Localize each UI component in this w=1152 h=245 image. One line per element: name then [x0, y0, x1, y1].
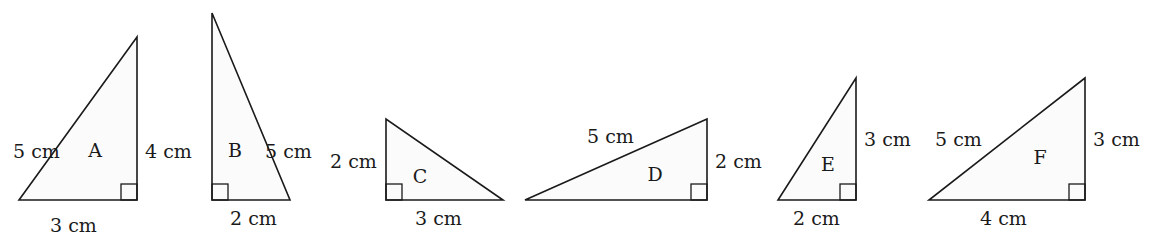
side-length-base: 2 cm [230, 207, 277, 229]
triangles-diagram: A5 cm4 cm3 cmB5 cm2 cmC2 cm3 cmD5 cm2 cm… [0, 0, 1152, 245]
triangle-name-label: B [228, 139, 242, 161]
side-length-hypotenuse: 5 cm [13, 140, 60, 162]
side-length-base: 4 cm [980, 207, 1027, 229]
triangle-shape [778, 78, 856, 200]
triangle-shape [19, 37, 137, 200]
triangle-b: B5 cm2 cm [212, 13, 312, 229]
triangle-a: A5 cm4 cm3 cm [13, 37, 192, 236]
side-length-vertical: 4 cm [145, 140, 192, 162]
side-length-vertical: 2 cm [330, 150, 377, 172]
triangle-name-label: D [647, 163, 662, 185]
side-length-vertical: 2 cm [715, 150, 762, 172]
triangle-name-label: C [413, 165, 428, 187]
side-length-base: 2 cm [793, 207, 840, 229]
triangle-name-label: F [1033, 146, 1046, 168]
side-length-hypotenuse: 5 cm [265, 140, 312, 162]
diagram-canvas: A5 cm4 cm3 cmB5 cm2 cmC2 cm3 cmD5 cm2 cm… [0, 0, 1152, 245]
triangle-name-label: A [87, 139, 102, 161]
side-length-vertical: 3 cm [864, 128, 911, 150]
triangle-d: D5 cm2 cm [525, 119, 762, 200]
triangle-shape [212, 13, 290, 200]
triangle-e: E3 cm2 cm [778, 78, 911, 229]
triangle-c: C2 cm3 cm [330, 119, 503, 229]
side-length-hypotenuse: 5 cm [587, 125, 634, 147]
side-length-base: 3 cm [415, 207, 462, 229]
side-length-vertical: 3 cm [1093, 128, 1140, 150]
side-length-hypotenuse: 5 cm [935, 128, 982, 150]
triangle-shape [386, 119, 503, 200]
side-length-base: 3 cm [50, 214, 97, 236]
triangle-name-label: E [821, 153, 835, 175]
triangle-f: F5 cm3 cm4 cm [929, 78, 1140, 229]
